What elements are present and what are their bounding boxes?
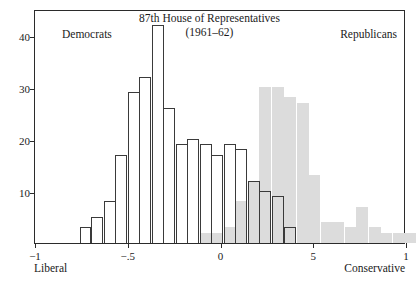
bar-republicans-17: [404, 233, 416, 243]
bar-democrats-1: [91, 217, 103, 243]
bar-republicans-15: [380, 233, 392, 243]
x-tick-label-2: 0: [218, 250, 224, 262]
x-tick-mark-0: [35, 243, 36, 248]
chart-title-line1: 87th House of Representatives: [139, 12, 280, 24]
x-tick-label-3: 5: [311, 250, 317, 262]
x-tick-label-4: 1: [403, 250, 409, 262]
y-tick-mark: [30, 141, 35, 142]
bar-democrats-15: [259, 191, 271, 243]
republicans-caption: Republicans: [340, 28, 397, 40]
conservative-endpoint-label: Conservative: [344, 262, 405, 274]
bar-democrats-3: [115, 155, 127, 243]
bar-democrats-5: [139, 77, 151, 243]
y-tick-label: 30: [19, 83, 30, 95]
x-tick-mark-2: [221, 243, 222, 248]
y-tick-mark: [30, 193, 35, 194]
plot-area: 10203040 −1−.5051: [34, 10, 405, 244]
liberal-endpoint-label: Liberal: [34, 262, 67, 274]
bar-democrats-7: [163, 108, 175, 243]
bar-republicans-11: [332, 222, 344, 243]
bar-democrats-11: [211, 155, 223, 243]
bar-democrats-13: [235, 149, 247, 243]
x-tick-mark-4: [406, 243, 407, 248]
x-tick-mark-1: [128, 243, 129, 248]
bar-republicans-7: [284, 97, 296, 243]
bar-republicans-9: [308, 175, 320, 243]
y-tick-label: 20: [19, 135, 30, 147]
histogram-figure: 87th House of Representatives (1961–62) …: [0, 0, 419, 286]
bar-democrats-9: [187, 139, 199, 243]
bars-layer: [35, 11, 404, 243]
x-tick-label-0: −1: [29, 250, 41, 262]
x-tick-mark-3: [313, 243, 314, 248]
x-tick-label-1: −.5: [121, 250, 135, 262]
democrats-caption: Democrats: [62, 28, 112, 40]
bar-democrats-17: [284, 227, 296, 243]
y-tick-mark: [30, 89, 35, 90]
y-tick-label: 10: [19, 187, 30, 199]
bar-republicans-13: [356, 207, 368, 243]
